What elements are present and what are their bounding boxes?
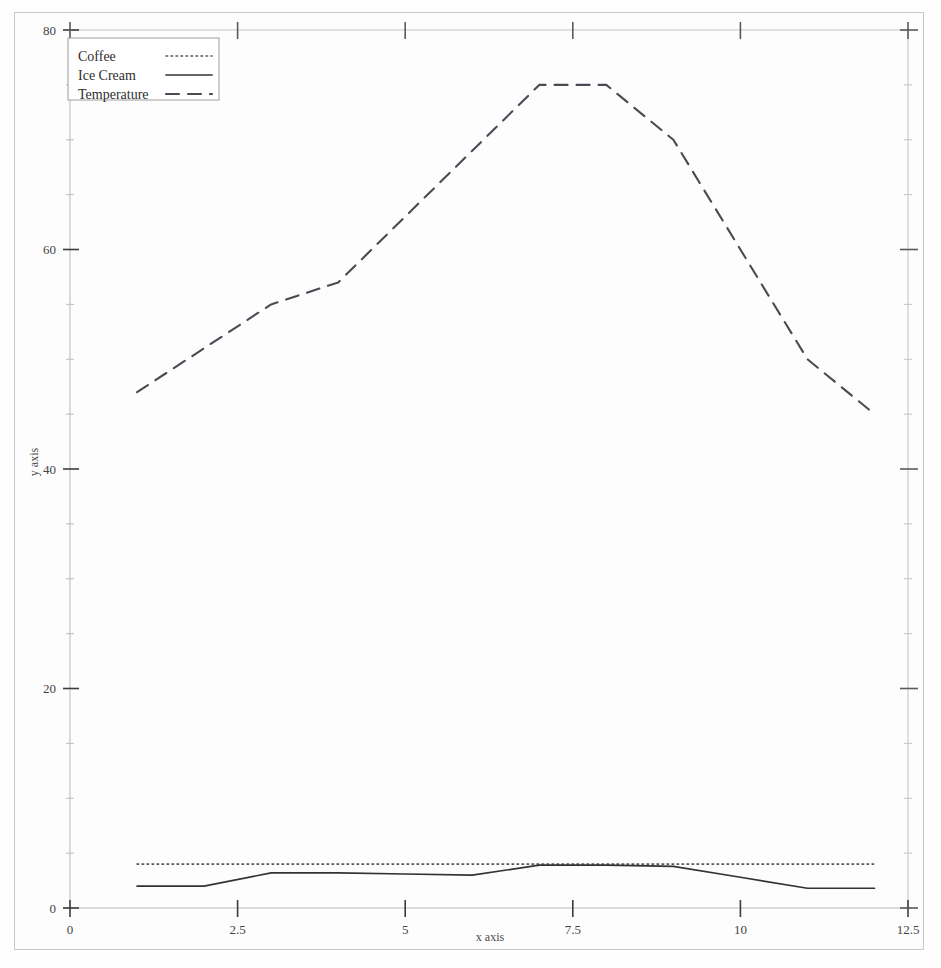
chart-page: 020406080 02.557.51012.5 x axis y axis C… — [0, 0, 941, 968]
x-tick-label: 12.5 — [897, 922, 920, 937]
legend-label-temperature: Temperature — [78, 87, 149, 102]
x-tick-label: 2.5 — [229, 922, 245, 937]
y-tick-label: 80 — [43, 23, 56, 38]
x-tick-label: 10 — [734, 922, 747, 937]
chart-legend[interactable]: CoffeeIce CreamTemperature — [68, 38, 219, 102]
axis-lines — [64, 28, 912, 910]
y-tick-label: 60 — [43, 242, 56, 257]
y-tick-label: 40 — [43, 462, 56, 477]
y-axis-title: y axis — [27, 448, 41, 477]
y-tick-label: 0 — [50, 901, 57, 916]
series-line-temperature — [137, 85, 874, 414]
series-line-ice-cream — [137, 865, 874, 888]
x-tick-label: 7.5 — [565, 922, 581, 937]
legend-label-coffee: Coffee — [78, 49, 116, 64]
line-chart: 020406080 02.557.51012.5 x axis y axis C… — [0, 0, 941, 968]
legend-label-ice-cream: Ice Cream — [78, 68, 136, 83]
x-tick-label: 0 — [67, 922, 74, 937]
y-tick-label: 20 — [43, 681, 56, 696]
data-series-group — [137, 85, 874, 888]
y-axis-ticks-right — [900, 30, 918, 908]
y-axis-ticks: 020406080 — [43, 23, 79, 916]
x-tick-label: 5 — [402, 922, 409, 937]
x-axis-title: x axis — [476, 930, 505, 944]
